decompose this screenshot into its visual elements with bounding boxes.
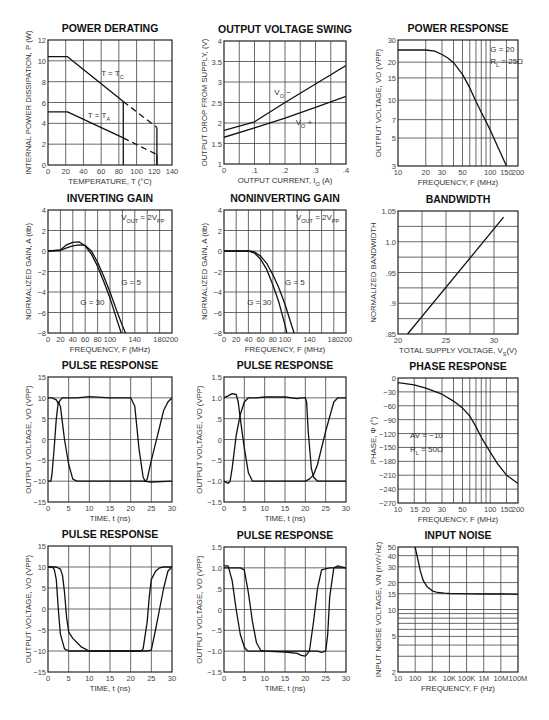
y-tick-label: 6 [42,99,46,108]
y-tick-label: 0 [42,436,46,445]
x-tick-label: 140 [129,335,142,344]
y-tick-label: 5 [392,632,396,641]
y-tick-label: −2 [37,268,46,277]
x-tick-label: 15 [106,674,114,683]
y-axis-label: OUTPUT VOLTAGE, VO (VPP) [24,385,33,494]
y-tick-label: 20 [388,58,396,67]
x-tick-label: 50 [458,505,466,514]
x-tick-label: 15 [281,674,289,683]
y-tick-label: 40 [388,552,396,561]
y-axis-label: NORMALIZED GAIN, A (db) [24,223,33,320]
y-tick-label: 0 [42,161,46,170]
y-tick-label: 4 [218,206,222,215]
x-tick-label: .1 [251,166,257,175]
x-tick-label: 20 [422,505,430,514]
x-tick-label: 80 [93,335,101,344]
chart-title: INPUT NOISE [424,529,491,541]
data-series [48,57,123,102]
y-tick-label: 1.05 [381,207,396,216]
x-tick-label: 40 [69,335,77,344]
x-tick-label: 40 [244,335,252,344]
y-tick-label: 1.5 [212,373,222,382]
x-tick-label: 25 [442,336,450,345]
x-tick-label: 200 [512,168,525,177]
x-axis-label: FREQUENCY, F (Hz) [421,684,495,693]
annotation: T = TC [101,69,124,80]
x-tick-label: 5 [67,504,71,513]
y-tick-label: −6 [37,309,46,318]
x-tick-label: 20 [126,504,134,513]
x-tick-label: 50 [458,168,466,177]
x-tick-label: 30 [438,505,446,514]
x-tick-label: 100K [458,674,476,683]
x-tick-label: 120 [148,167,161,176]
x-axis-label: TIME, t (ns) [90,514,131,523]
y-tick-label: −10 [33,647,46,656]
x-tick-label: 0 [222,504,226,513]
y-tick-label: 2 [42,227,46,236]
y-axis-label: NORMALIZED GAIN, A (db) [200,223,209,320]
y-tick-label: 2 [392,668,396,677]
annotation: AV = −10 [410,431,443,440]
y-tick-label: −1.0 [207,647,222,656]
chart-title: POWER DERATING [62,22,159,34]
x-tick-label: 80 [115,167,123,176]
x-axis-label: FREQUENCY, F (MHz) [418,178,499,187]
x-axis-label: TIME, t (ns) [265,514,306,523]
y-tick-label: 15 [388,74,396,83]
y-axis-label: OUTPUT VOLTAGE, VO (VPP) [24,554,33,663]
y-tick-label: 10 [388,96,396,105]
annotation: VO + [296,118,313,129]
chart-pulse-response-4: PULSE RESPONSE051015202530−1.5−1.0−.50.5… [195,529,350,693]
y-tick-label: 10 [38,563,46,572]
y-tick-label: −4 [213,288,222,297]
chart-pulse-response-2: PULSE RESPONSE051015202530−1.5−1.0−.50.5… [195,359,350,523]
y-tick-label: −.5 [211,456,222,465]
y-tick-label: 3.5 [212,58,222,67]
x-tick-label: 30 [490,336,498,345]
y-tick-label: −.5 [211,626,222,635]
x-tick-label: 1K [428,674,437,683]
y-tick-label: 0 [218,436,222,445]
y-axis-label: OUTPUT VOLTAGE, VO (VPP) [374,48,383,157]
chart-power-response: POWER RESPONSE10203050100150200357101520… [374,22,524,187]
y-tick-label: −150 [379,443,396,452]
y-tick-label: 0 [42,247,46,256]
chart-title: BANDWIDTH [426,193,491,205]
y-tick-label: 0 [392,374,396,383]
x-axis-label: FREQUENCY, F (MHz) [418,515,499,524]
x-axis-label: TIME, t (ns) [90,684,131,693]
x-tick-label: 0 [222,335,226,344]
y-tick-label: −1.5 [207,668,222,677]
y-tick-label: 10 [38,57,46,66]
y-tick-label: 20 [388,579,396,588]
x-tick-label: 20 [62,167,70,176]
x-tick-label: 20 [301,674,309,683]
x-tick-label: 1M [479,674,489,683]
chart-inverting-gain: INVERTING GAIN020406080100140180200−8−6−… [24,192,178,354]
x-tick-label: 5 [67,674,71,683]
y-tick-label: 15 [38,373,46,382]
x-tick-label: 60 [97,167,105,176]
x-tick-label: 20 [232,335,240,344]
chart-phase-response: PHASE RESPONSE10152030501001502000−30−60… [369,360,524,524]
x-tick-label: 60 [256,335,264,344]
y-axis-label: OUTPUT VOLTAGE, VO (VPP) [195,385,204,494]
y-tick-label: 50 [388,543,396,552]
chart-power-derating: POWER DERATING02040608010012014002468101… [24,22,178,186]
chart-input-noise: INPUT NOISE101001K10K100K1M10M100M251015… [374,529,527,693]
chart-title: PULSE RESPONSE [237,359,333,371]
y-tick-label: .85 [386,330,396,339]
y-tick-label: 0 [218,247,222,256]
x-tick-label: 5 [242,504,246,513]
y-axis-label: NORMALIZED BANDWIDTH [369,222,378,323]
y-tick-label: 5 [42,584,46,593]
x-axis-label: TEMPERATURE, T (°C) [68,177,152,186]
y-tick-label: −6 [213,309,222,318]
x-tick-label: 30 [342,674,350,683]
x-tick-label: 100 [484,505,497,514]
chart-noninverting-gain: NONINVERTING GAIN020406080100140180200−8… [200,192,352,354]
y-tick-label: 5 [42,415,46,424]
y-tick-label: −1.0 [207,477,222,486]
y-tick-label: 4 [42,119,46,128]
